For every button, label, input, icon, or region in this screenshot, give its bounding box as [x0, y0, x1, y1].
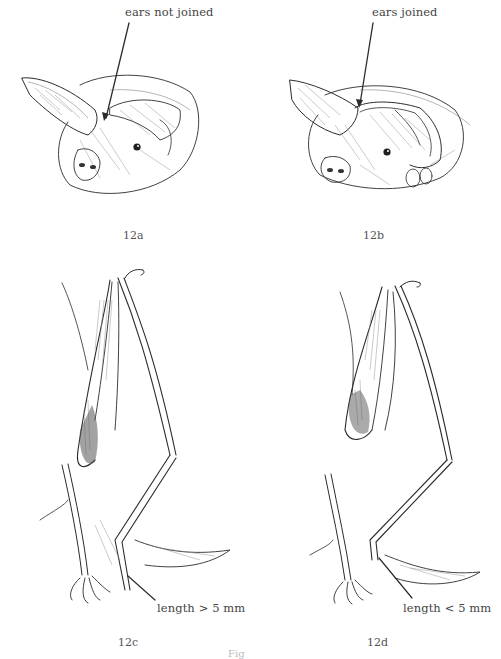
panel-label-12d: 12d [367, 636, 388, 649]
annotation-length-less-than-5mm: length < 5 mm [403, 601, 491, 615]
figure-caption-partial: Fig [228, 648, 245, 659]
